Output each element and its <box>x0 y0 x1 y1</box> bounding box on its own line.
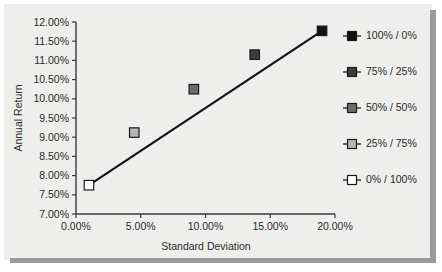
y-tick-label: 10.00% <box>33 92 69 104</box>
x-tick-label: 20.00% <box>317 220 353 232</box>
data-point-marker <box>84 180 94 190</box>
scatter-plot: 12.00%11.50%11.00%10.50%10.00%9.50%9.00%… <box>0 0 442 272</box>
y-axis-ticks: 12.00%11.50%11.00%10.50%10.00%9.50%9.00%… <box>33 16 76 220</box>
y-tick-label: 11.00% <box>34 54 69 66</box>
legend-label: 25% / 75% <box>366 137 417 149</box>
chart-legend: 100% / 0%75% / 25%50% / 50%25% / 75%0% /… <box>343 29 417 185</box>
legend-marker <box>348 140 357 149</box>
legend-label: 100% / 0% <box>366 29 417 41</box>
data-point-marker <box>189 84 199 94</box>
legend-label: 50% / 50% <box>366 101 417 113</box>
legend-marker <box>348 32 357 41</box>
x-tick-label: 15.00% <box>252 220 288 232</box>
y-tick-label: 8.50% <box>39 150 69 162</box>
legend-marker <box>348 176 357 185</box>
y-tick-label: 8.00% <box>39 169 69 181</box>
x-axis-ticks: 0.00%5.00%10.00%15.00%20.00% <box>61 214 353 232</box>
y-tick-label: 9.00% <box>39 131 69 143</box>
x-tick-label: 0.00% <box>61 220 91 232</box>
data-point-marker <box>250 50 260 60</box>
x-tick-label: 5.00% <box>126 220 156 232</box>
legend-label: 75% / 25% <box>366 65 417 77</box>
legend-label: 0% / 100% <box>366 173 417 185</box>
axis-lines <box>76 22 335 214</box>
data-point-marker <box>317 26 327 36</box>
x-axis-title: Standard Deviation <box>161 240 250 252</box>
y-tick-label: 7.00% <box>39 208 69 220</box>
y-tick-label: 10.50% <box>33 73 69 85</box>
chart-figure: 12.00%11.50%11.00%10.50%10.00%9.50%9.00%… <box>0 0 442 272</box>
legend-marker <box>348 104 357 113</box>
x-tick-label: 10.00% <box>188 220 224 232</box>
trend-line <box>89 31 322 185</box>
data-point-marker <box>130 128 140 138</box>
y-axis-title: Annual Return <box>12 84 24 151</box>
y-tick-label: 11.50% <box>34 35 69 47</box>
y-tick-label: 7.50% <box>39 188 69 200</box>
y-tick-label: 9.50% <box>39 112 69 124</box>
legend-marker <box>348 68 357 77</box>
y-tick-label: 12.00% <box>33 16 69 28</box>
